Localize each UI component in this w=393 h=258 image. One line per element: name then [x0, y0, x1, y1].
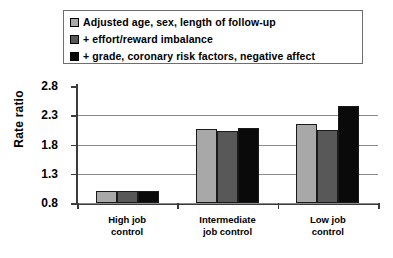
bar — [96, 191, 117, 203]
y-axis-tick — [71, 174, 78, 176]
x-axis-tick — [77, 203, 79, 209]
gridline — [77, 115, 378, 116]
x-axis-tick — [378, 203, 380, 209]
legend-item: + grade, coronary risk factors, negative… — [70, 48, 362, 64]
bar — [317, 130, 338, 203]
bar — [196, 129, 217, 203]
chart-legend: Adjusted age, sex, length of follow-up +… — [63, 10, 363, 64]
y-axis-tick-label: 0.8 — [18, 196, 58, 210]
y-axis-tick-label: 2.3 — [18, 108, 58, 122]
bar — [296, 124, 317, 203]
x-axis-category-label: Intermediate job control — [178, 214, 278, 237]
bar — [338, 106, 359, 203]
legend-item-label: + grade, coronary risk factors, negative… — [83, 51, 315, 62]
x-axis-category-label: High job control — [77, 214, 177, 237]
x-axis-tick — [177, 203, 179, 209]
legend-item: Adjusted age, sex, length of follow-up — [70, 14, 362, 30]
y-axis-tick — [71, 115, 78, 117]
x-axis-category-label: Low job control — [278, 214, 378, 237]
y-axis-tick-label: 1.8 — [18, 138, 58, 152]
bar — [217, 131, 238, 203]
plot-area — [77, 86, 378, 203]
legend-swatch-icon — [70, 35, 79, 44]
x-axis-tick — [278, 203, 280, 209]
bar — [138, 191, 159, 203]
legend-item: + effort/reward imbalance — [70, 31, 362, 47]
y-axis-tick-label: 1.3 — [18, 167, 58, 181]
legend-swatch-icon — [70, 18, 79, 27]
y-axis-tick-label: 2.8 — [18, 79, 58, 93]
y-axis-tick — [71, 86, 78, 88]
bar — [238, 128, 259, 203]
legend-item-label: + effort/reward imbalance — [83, 34, 213, 45]
gridline — [77, 203, 378, 204]
legend-item-label: Adjusted age, sex, length of follow-up — [83, 17, 276, 28]
y-axis-tick — [71, 145, 78, 147]
bar — [117, 191, 138, 203]
legend-swatch-icon — [70, 52, 79, 61]
